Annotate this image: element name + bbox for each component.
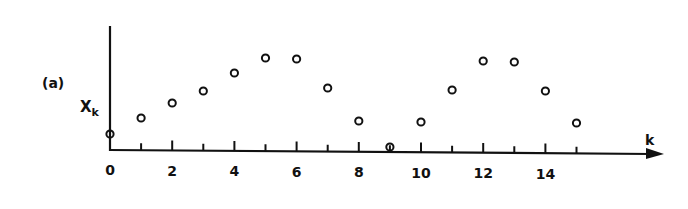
x-tick-label: 2 [167,163,177,179]
data-point [262,54,269,61]
data-point [542,87,549,94]
x-tick-label: 4 [230,163,240,179]
x-axis-label: k [645,132,655,148]
x-tick-label: 10 [411,165,431,181]
y-axis-label-main: X [80,98,92,116]
data-point [417,118,424,125]
data-point [138,114,145,121]
x-axis-arrowhead-icon [646,148,664,159]
x-tick-label: 6 [292,164,302,180]
data-point [511,58,518,65]
data-point [480,57,487,64]
data-point [169,99,176,106]
data-point [200,87,207,94]
x-tick-label: 8 [354,164,364,180]
data-points [106,54,580,150]
data-point [324,84,331,91]
x-tick-label: 14 [536,166,556,182]
data-point [449,86,456,93]
data-point [355,117,362,124]
data-point [231,69,238,76]
x-tick-label: 0 [105,162,115,178]
x-tick-label: 12 [473,165,492,181]
y-axis-label: Xk [80,98,100,119]
data-point [573,119,580,126]
panel-label: (a) [42,75,64,91]
x-axis-line [109,150,652,154]
y-axis-label-sub: k [92,106,100,119]
axes [109,26,664,159]
chart-svg: 02468101214 (a) Xk k [0,0,688,209]
x-ticks: 02468101214 [105,141,576,182]
data-point [293,55,300,62]
